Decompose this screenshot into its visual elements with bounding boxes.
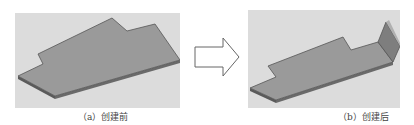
panel-after bbox=[248, 10, 400, 108]
caption-after: （b）创建后 bbox=[338, 110, 389, 123]
caption-before: （a）创建前 bbox=[78, 110, 128, 123]
bent-plate-illustration bbox=[248, 10, 400, 108]
panel-before bbox=[15, 13, 180, 108]
right-arrow-icon bbox=[193, 37, 241, 77]
flat-plate-illustration bbox=[15, 13, 180, 108]
